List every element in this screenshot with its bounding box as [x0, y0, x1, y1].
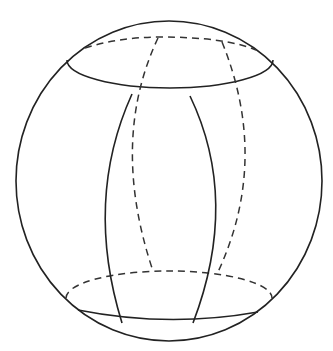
outer-sphere-outline — [16, 21, 322, 341]
bottom-circle-front-arc — [78, 310, 258, 320]
sphere-diagram: physical — [0, 0, 333, 351]
top-circle-front-arc — [67, 60, 273, 88]
meridian-front-right — [190, 96, 216, 323]
bottom-circle-back-arc — [66, 271, 272, 298]
meridian-front-left — [105, 94, 132, 323]
sphere-drawing — [0, 0, 333, 351]
meridian-back-right — [218, 42, 245, 272]
top-circle-back-arc — [85, 37, 256, 50]
meridian-back-left — [132, 38, 158, 268]
